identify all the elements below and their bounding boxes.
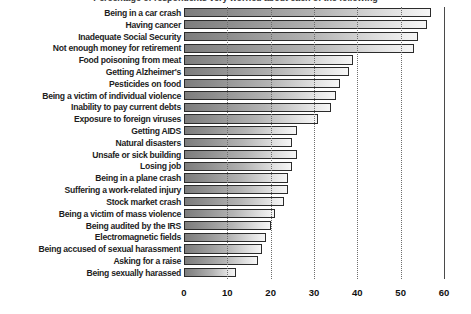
chart-row: Being audited by the IRS [0, 220, 471, 232]
chart-row: Food poisoning from meat [0, 54, 471, 66]
category-label: Food poisoning from meat [0, 55, 184, 65]
chart-row: Asking for a raise [0, 255, 471, 267]
chart-row: Getting AIDS [0, 125, 471, 137]
bar-track [184, 137, 471, 149]
bar-track [184, 125, 471, 137]
chart-title: Percentage of respondents very worried a… [0, 0, 471, 3]
chart-row: Being a victim of mass violence [0, 208, 471, 220]
bar [184, 221, 271, 230]
category-label: Natural disasters [0, 138, 184, 148]
bar [184, 233, 266, 242]
x-axis: 0102030405060 [184, 279, 444, 305]
category-label: Being a victim of mass violence [0, 209, 184, 219]
bar-track [184, 7, 471, 19]
x-tick-label-60: 60 [439, 287, 450, 298]
chart-row: Losing job [0, 161, 471, 173]
chart-row: Inability to pay current debts [0, 102, 471, 114]
category-label: Not enough money for retirement [0, 43, 184, 53]
bar [184, 114, 318, 123]
category-label: Being sexually harassed [0, 268, 184, 278]
bar [184, 67, 349, 76]
chart-row: Suffering a work-related injury [0, 184, 471, 196]
bar-track [184, 267, 471, 279]
category-label: Having cancer [0, 20, 184, 30]
chart-row: Not enough money for retirement [0, 42, 471, 54]
x-tick-label-10: 10 [222, 287, 233, 298]
chart-row: Being a victim of individual violence [0, 90, 471, 102]
category-label: Losing job [0, 161, 184, 171]
bar [184, 8, 431, 17]
chart-row: Pesticides on food [0, 78, 471, 90]
category-label: Getting Alzheimer's [0, 67, 184, 77]
bar-track [184, 149, 471, 161]
chart-row: Stock market crash [0, 196, 471, 208]
bar [184, 91, 336, 100]
x-tick-label-30: 30 [309, 287, 320, 298]
category-label: Pesticides on food [0, 79, 184, 89]
chart-row: Natural disasters [0, 137, 471, 149]
chart-row: Having cancer [0, 19, 471, 31]
category-label: Being in a car crash [0, 8, 184, 18]
bar [184, 244, 262, 253]
bar-track [184, 90, 471, 102]
chart-row: Unsafe or sick building [0, 149, 471, 161]
bar [184, 162, 292, 171]
category-label: Exposure to foreign viruses [0, 114, 184, 124]
bar-track [184, 102, 471, 114]
bar-track [184, 42, 471, 54]
bar-track [184, 172, 471, 184]
category-label: Suffering a work-related injury [0, 185, 184, 195]
bar-chart: Percentage of respondents very worried a… [0, 0, 471, 314]
category-label: Getting AIDS [0, 126, 184, 136]
chart-row: Being sexually harassed [0, 267, 471, 279]
bar [184, 185, 288, 194]
bar-track [184, 220, 471, 232]
x-tick-label-50: 50 [395, 287, 406, 298]
bar-track [184, 161, 471, 173]
x-tick-label-0: 0 [181, 287, 186, 298]
chart-row: Exposure to foreign viruses [0, 113, 471, 125]
bar-track [184, 255, 471, 267]
chart-row: Being in a plane crash [0, 172, 471, 184]
chart-row: Inadequate Social Security [0, 31, 471, 43]
bar [184, 256, 258, 265]
category-label: Being in a plane crash [0, 173, 184, 183]
bar [184, 44, 414, 53]
bar [184, 55, 353, 64]
x-tick-label-20: 20 [265, 287, 276, 298]
category-label: Stock market crash [0, 197, 184, 207]
bar [184, 197, 284, 206]
bar-track [184, 66, 471, 78]
category-label: Being accused of sexual harassment [0, 244, 184, 254]
chart-row: Electromagnetic fields [0, 231, 471, 243]
bar [184, 138, 292, 147]
bar [184, 103, 331, 112]
category-label: Electromagnetic fields [0, 232, 184, 242]
category-label: Inability to pay current debts [0, 102, 184, 112]
category-label: Being audited by the IRS [0, 221, 184, 231]
category-label: Unsafe or sick building [0, 150, 184, 160]
chart-rows: Being in a car crashHaving cancerInadequ… [0, 7, 471, 279]
bar [184, 32, 418, 41]
bar-track [184, 243, 471, 255]
category-label: Being a victim of individual violence [0, 91, 184, 101]
bar-track [184, 231, 471, 243]
bar-track [184, 113, 471, 125]
bar-track [184, 54, 471, 66]
bar-track [184, 184, 471, 196]
bar [184, 126, 297, 135]
bar-track [184, 19, 471, 31]
x-tick-label-40: 40 [352, 287, 363, 298]
bar [184, 209, 275, 218]
bar [184, 268, 236, 277]
bar [184, 150, 297, 159]
bar-track [184, 78, 471, 90]
bar [184, 20, 427, 29]
chart-row: Being in a car crash [0, 7, 471, 19]
category-label: Inadequate Social Security [0, 32, 184, 42]
bar-track [184, 196, 471, 208]
chart-row: Getting Alzheimer's [0, 66, 471, 78]
bar [184, 173, 288, 182]
bar-track [184, 31, 471, 43]
category-label: Asking for a raise [0, 256, 184, 266]
